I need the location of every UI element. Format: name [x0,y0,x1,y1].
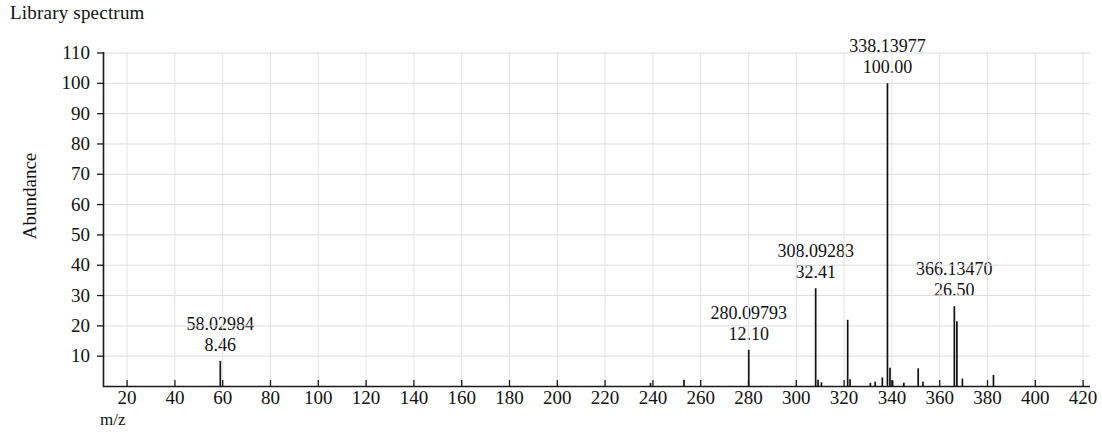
horizontal-gridlines [104,53,1090,356]
vertical-gridlines [127,52,1083,386]
